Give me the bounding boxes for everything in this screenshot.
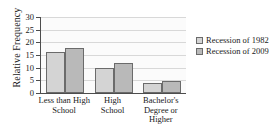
bar <box>162 81 181 93</box>
y-axis-title: Relative Frequency <box>11 1 22 95</box>
bar <box>114 63 133 93</box>
legend-label: Recession of 1982 <box>206 36 269 45</box>
bar <box>95 68 114 93</box>
x-axis-labels: Less than HighSchoolHighSchoolBachelor's… <box>40 96 185 134</box>
legend-item[interactable]: Recession of 2009 <box>196 46 274 56</box>
bar <box>65 48 84 93</box>
plot-area <box>40 17 186 94</box>
x-axis-label-line: School <box>93 106 133 116</box>
x-axis-label: HighSchool <box>93 96 133 115</box>
bars-layer <box>41 17 186 93</box>
legend-item[interactable]: Recession of 1982 <box>196 35 274 45</box>
chart-legend: Recession of 1982Recession of 2009 <box>196 35 274 57</box>
bar <box>46 52 65 93</box>
legend-swatch-icon <box>196 48 203 55</box>
x-axis-label: Less than HighSchool <box>33 96 95 115</box>
x-axis-label: Bachelor'sDegree orHigher <box>135 96 187 125</box>
x-axis-label-line: School <box>33 106 95 116</box>
legend-swatch-icon <box>196 37 203 44</box>
bar <box>143 83 162 93</box>
legend-label: Recession of 2009 <box>206 47 269 56</box>
x-axis-label-line: Higher <box>135 115 187 125</box>
bar-chart: Relative Frequency 051015202530 Less tha… <box>0 0 274 134</box>
